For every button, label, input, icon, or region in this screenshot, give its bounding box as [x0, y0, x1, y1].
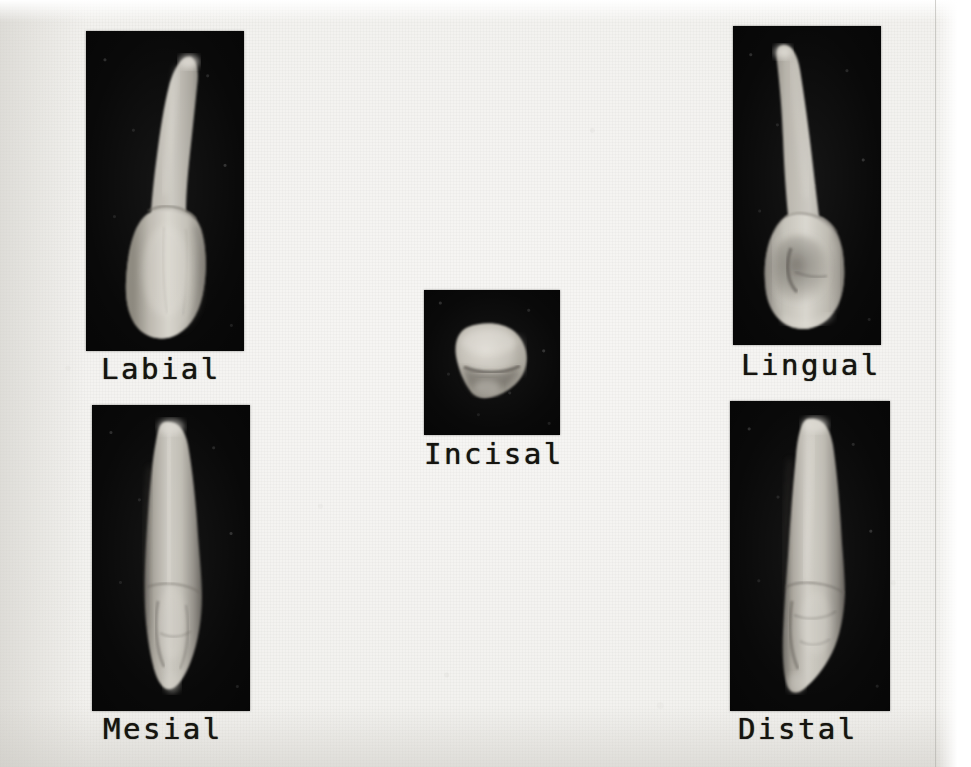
caption-distal: Distal [738, 712, 858, 746]
panel-mesial [92, 405, 250, 711]
tooth-views-plate: Labial [0, 0, 971, 767]
panel-vignette [733, 26, 881, 345]
page-edge-line [935, 0, 936, 767]
caption-lingual: Lingual [741, 348, 881, 382]
panel-labial [86, 31, 244, 351]
caption-labial: Labial [101, 352, 221, 386]
panel-incisal [424, 290, 560, 435]
panel-vignette [424, 290, 560, 435]
panel-vignette [730, 401, 890, 711]
panel-vignette [92, 405, 250, 711]
top-margin-highlight [0, 0, 971, 22]
panel-distal [730, 401, 890, 711]
left-margin-shading [0, 0, 86, 767]
caption-mesial: Mesial [103, 712, 223, 746]
right-margin-highlight [937, 0, 971, 767]
panel-lingual [733, 26, 881, 345]
caption-incisal: Incisal [424, 437, 564, 471]
panel-vignette [86, 31, 244, 351]
